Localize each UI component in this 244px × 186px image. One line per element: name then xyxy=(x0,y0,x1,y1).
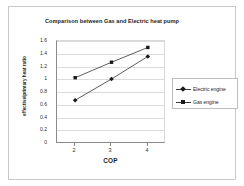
legend-item-gas-engine: Gas engine xyxy=(176,97,219,107)
data-point-marker xyxy=(73,98,78,103)
legend: Electric engine Gas engine xyxy=(172,78,238,109)
x-tick-mark xyxy=(110,143,111,146)
y-axis-title: effective/primary heat ratio xyxy=(22,41,28,131)
y-tick-label: 0.4 xyxy=(33,114,47,120)
y-tick-label: 1.2 xyxy=(33,63,47,69)
data-point-marker xyxy=(109,77,114,82)
x-tick-label: 4 xyxy=(139,147,155,154)
y-tick-label: 0.6 xyxy=(33,101,47,107)
chart-frame: Comparison between Gas and Electric heat… xyxy=(8,6,236,180)
y-tick-label: 1.4 xyxy=(33,50,47,56)
x-tick-label: 3 xyxy=(102,147,118,154)
chart-title: Comparison between Gas and Electric heat… xyxy=(17,17,207,25)
data-series-layer xyxy=(57,41,166,144)
data-point-marker xyxy=(110,61,113,64)
y-tick-label: 0.2 xyxy=(33,126,47,132)
legend-item-electric-engine: Electric engine xyxy=(176,84,226,94)
legend-swatch-diamond-icon xyxy=(176,86,191,93)
y-tick-label: 0.8 xyxy=(33,88,47,94)
chart-screenshot: Comparison between Gas and Electric heat… xyxy=(0,0,244,186)
x-tick-mark xyxy=(74,143,75,146)
x-tick-label: 2 xyxy=(66,147,82,154)
y-tick-label: 1 xyxy=(33,75,47,81)
legend-label: Gas engine xyxy=(193,99,219,105)
data-point-marker xyxy=(146,46,149,49)
x-tick-mark xyxy=(147,143,148,146)
plot-area xyxy=(56,40,165,143)
legend-label: Electric engine xyxy=(193,86,226,92)
x-axis-title: COP xyxy=(56,157,165,164)
data-point-marker xyxy=(146,54,151,59)
data-point-marker xyxy=(73,76,76,79)
y-tick-label: 0 xyxy=(33,139,47,145)
y-tick-label: 1.6 xyxy=(33,37,47,43)
legend-swatch-square-icon xyxy=(176,99,191,106)
